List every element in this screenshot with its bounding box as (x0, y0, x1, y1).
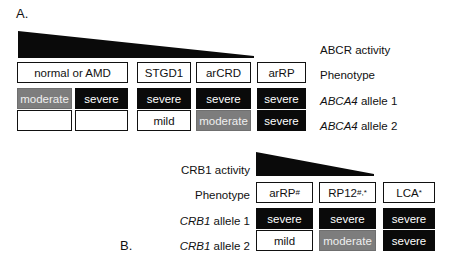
panel-b-phenotype-label: Phenotype (120, 189, 250, 201)
panel-a-letter: A. (16, 7, 28, 20)
panel-a-allele2-cell-2[interactable] (75, 110, 128, 131)
panel-a-allele2-gene: ABCA4 (320, 120, 358, 132)
panel-b-phenotype-box-rp12[interactable]: RP12#,* (319, 182, 376, 203)
panel-a-allele1-cell-3[interactable]: severe (137, 88, 191, 109)
panel-a-allele2-suffix: allele 2 (358, 120, 398, 132)
panel-b-allele1-cell-1[interactable]: severe (256, 208, 313, 229)
panel-a-allele2-cell-5[interactable]: severe (257, 110, 306, 131)
panel-b-allele2-suffix: allele 2 (210, 240, 250, 252)
panel-a-allele2-label: ABCA4 allele 2 (320, 120, 397, 132)
panel-a-phenotype-box-stgd1[interactable]: STGD1 (137, 62, 191, 83)
panel-a-allele2-cell-1[interactable] (17, 110, 72, 131)
panel-b-allele1-label: CRB1 allele 1 (120, 215, 250, 227)
panel-a-allele1-cell-1[interactable]: moderate (17, 88, 72, 109)
panel-a-activity-label: ABCR activity (320, 44, 390, 56)
panel-a-allele1-gene: ABCA4 (320, 95, 358, 107)
panel-a-allele1-cell-5[interactable]: severe (257, 88, 306, 109)
panel-b-allele1-cell-2[interactable]: severe (319, 208, 376, 229)
panel-a-allele1-label: ABCA4 allele 1 (320, 95, 397, 107)
panel-b-allele2-cell-1[interactable]: mild (256, 230, 313, 251)
panel-b-allele2-cell-3[interactable]: severe (383, 230, 435, 251)
panel-b-phenotype-arrp-text: arRP (269, 187, 295, 199)
abcr-activity-wedge (18, 31, 254, 58)
panel-a-phenotype-box-arcrd[interactable]: arCRD (196, 62, 251, 83)
panel-b-phenotype-lca-text: LCA (396, 187, 418, 199)
figure-canvas: A. ABCR activity Phenotype ABCA4 allele … (0, 0, 449, 272)
crb1-activity-wedge (256, 152, 374, 176)
panel-a-allele2-cell-3[interactable]: mild (137, 110, 191, 131)
panel-a-phenotype-box-normal-or-amd[interactable]: normal or AMD (17, 62, 128, 83)
panel-b-phenotype-box-lca[interactable]: LCA* (383, 182, 435, 203)
panel-a-allele1-cell-2[interactable]: severe (75, 88, 128, 109)
panel-b-phenotype-rp12-text: RP12 (328, 187, 357, 199)
panel-a-allele2-cell-4[interactable]: moderate (196, 110, 251, 131)
panel-b-phenotype-box-arrp[interactable]: arRP# (256, 182, 313, 203)
panel-b-allele1-cell-3[interactable]: severe (383, 208, 435, 229)
panel-b-allele2-gene: CRB1 (180, 240, 211, 252)
panel-b-allele2-label: CRB1 allele 2 (120, 240, 250, 252)
panel-a-allele1-cell-4[interactable]: severe (196, 88, 251, 109)
panel-a-phenotype-label: Phenotype (320, 69, 375, 81)
panel-a-allele1-suffix: allele 1 (358, 95, 398, 107)
panel-b-allele1-gene: CRB1 (180, 215, 211, 227)
panel-b-activity-label: CRB1 activity (120, 164, 250, 176)
panel-a-phenotype-box-arrp[interactable]: arRP (257, 62, 306, 83)
panel-b-allele1-suffix: allele 1 (210, 215, 250, 227)
panel-b-allele2-cell-2[interactable]: moderate (319, 230, 376, 251)
